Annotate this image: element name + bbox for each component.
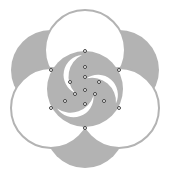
- point-marker: [50, 69, 53, 72]
- point-marker: [74, 93, 77, 96]
- point-marker: [94, 93, 97, 96]
- point-marker: [84, 66, 87, 69]
- point-marker: [84, 89, 87, 92]
- point-marker: [84, 76, 87, 79]
- point-marker: [84, 50, 87, 53]
- point-marker: [118, 107, 121, 110]
- triskelion-diagram: [0, 0, 169, 179]
- point-marker: [84, 127, 87, 130]
- point-marker: [69, 81, 72, 84]
- point-marker: [84, 103, 87, 106]
- point-marker: [50, 107, 53, 110]
- point-marker: [118, 69, 121, 72]
- point-marker: [98, 81, 101, 84]
- point-marker: [64, 100, 67, 103]
- point-marker: [103, 100, 106, 103]
